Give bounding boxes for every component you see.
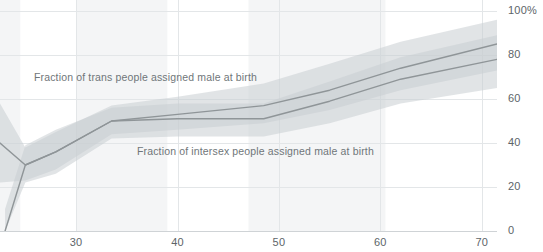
y-tick-label: 100% [508, 4, 537, 16]
x-tick-label: 70 [475, 236, 488, 248]
series-annotation-intersex: Fraction of intersex people assigned mal… [137, 145, 374, 157]
y-tick-label: 0 [508, 224, 514, 236]
x-tick-label: 50 [273, 236, 286, 248]
line-chart-plot-area [0, 0, 543, 252]
chart-container: 020406080100% 3040506070 Fraction of tra… [0, 0, 543, 252]
y-tick-label: 60 [508, 92, 521, 104]
x-tick-label: 30 [70, 236, 83, 248]
series-annotation-trans: Fraction of trans people assigned male a… [34, 71, 257, 83]
clipped-top-text [338, 0, 341, 7]
y-tick-label: 80 [508, 48, 521, 60]
x-tick-label: 40 [171, 236, 184, 248]
y-tick-label: 40 [508, 136, 521, 148]
x-tick-label: 60 [374, 236, 387, 248]
y-tick-label: 20 [508, 180, 521, 192]
